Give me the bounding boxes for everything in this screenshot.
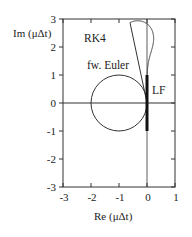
y-tick-labels: 3 2 1 0 -1 -2 -3 (47, 13, 57, 193)
y-tick-m2: -2 (47, 153, 56, 165)
y-tick-2: 2 (51, 41, 57, 53)
x-tick-0: 0 (145, 191, 151, 203)
y-tick-m3: -3 (47, 181, 57, 193)
stability-region-chart: 3 2 1 0 -1 -2 -3 -3 -2 -1 0 1 Im (μΔt) R… (0, 0, 192, 237)
lf-label: LF (152, 84, 165, 96)
y-tick-1: 1 (51, 69, 57, 81)
euler-label: fw. Euler (87, 59, 129, 71)
y-tick-3: 3 (51, 13, 57, 25)
y-axis-title: Im (μΔt) (13, 27, 52, 40)
y-tick-m1: -1 (47, 125, 56, 137)
x-tick-1: 1 (173, 191, 179, 203)
rk4-label: RK4 (84, 32, 106, 44)
x-tick-labels: -3 -2 -1 0 1 (59, 191, 178, 203)
y-tick-0: 0 (51, 97, 57, 109)
x-axis-title: Re (μΔt) (94, 210, 133, 223)
rk4-stability-curve (130, 21, 154, 103)
x-tick-m3: -3 (59, 191, 69, 203)
x-tick-m1: -1 (115, 191, 124, 203)
x-tick-m2: -2 (87, 191, 96, 203)
